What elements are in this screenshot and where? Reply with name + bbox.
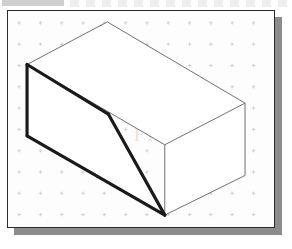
scan-artifact-top-left-bar (2, 0, 64, 6)
figure-root: FREE (0, 0, 292, 249)
chamfered-block-drawing (8, 11, 274, 227)
scan-artifact-ghost-text-row (70, 0, 290, 7)
sketch-sheet: FREE (7, 10, 275, 228)
